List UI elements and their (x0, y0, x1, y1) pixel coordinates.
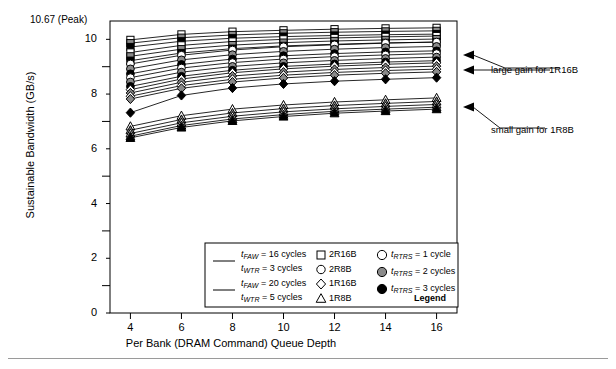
legend-line-entry-0-row1: tFAW = 16 cycles (241, 249, 306, 260)
legend-fill-label-0: tRTRS = 1 cycle (391, 249, 451, 260)
x-tick-label: 14 (371, 321, 401, 333)
x-tick-label: 4 (115, 321, 145, 333)
legend-circle-open-icon (317, 265, 325, 273)
x-tick-label: 10 (269, 321, 299, 333)
y-tick-label: 2 (67, 251, 97, 263)
legend-title: Legend (414, 293, 446, 303)
y-tick-label: 8 (67, 87, 97, 99)
legend-circle-gray-icon (377, 267, 386, 276)
data-point-diamond (432, 73, 440, 82)
legend-circle-black-icon (377, 284, 386, 293)
peak-label: 10.67 (Peak) (30, 14, 87, 25)
x-tick-label: 8 (217, 321, 247, 333)
legend-shape-label-1: 2R8B (329, 264, 352, 274)
x-tick-label: 12 (320, 321, 350, 333)
y-tick-label: 4 (67, 197, 97, 209)
data-point-diamond (330, 77, 338, 86)
x-tick-label: 16 (422, 321, 452, 333)
data-point-diamond (381, 75, 389, 84)
legend-square-open-icon (317, 251, 325, 259)
y-tick-label: 10 (67, 32, 97, 44)
legend-fill-label-1: tRTRS = 2 cycles (391, 266, 455, 277)
x-tick-label: 6 (166, 321, 196, 333)
footer-rule (8, 358, 608, 359)
legend-shape-label-3: 1R8B (329, 293, 352, 303)
legend-circle-white-icon (377, 250, 386, 259)
annotation-small-gain: small gain for 1R8B (491, 124, 574, 135)
data-point-diamond (228, 83, 236, 92)
figure-root: 10.67 (Peak) Per Bank (DRAM Command) Que… (0, 0, 616, 369)
x-axis-title: Per Bank (DRAM Command) Queue Depth (0, 337, 462, 349)
annotation-large-gain: large gain for 1R16B (491, 64, 578, 75)
legend-shape-label-2: 1R16B (329, 278, 357, 288)
y-axis-title: Sustainable Bandwidth (GB/s) (24, 45, 36, 245)
legend-line-entry-1-row2: tWTR = 5 cycles (241, 292, 302, 303)
y-tick-label: 0 (67, 306, 97, 318)
legend-line-entry-0-row2: tWTR = 3 cycles (241, 263, 302, 274)
data-point-diamond (126, 108, 134, 117)
data-point-diamond (177, 91, 185, 100)
legend-line-entry-1-row1: tFAW = 20 cycles (241, 278, 306, 289)
legend-shape-label-0: 2R16B (329, 249, 357, 259)
y-tick-label: 6 (67, 142, 97, 154)
data-point-diamond (279, 79, 287, 88)
series-layer (126, 24, 441, 141)
